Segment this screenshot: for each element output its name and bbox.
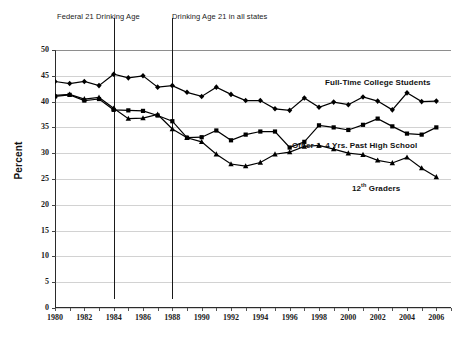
data-point-1-2006	[434, 125, 438, 129]
data-point-1-2001	[361, 123, 365, 127]
x-tick-1988	[172, 308, 173, 311]
x-tick-1989	[187, 308, 188, 311]
annotation-federal-drinking-age: Federal 21 Drinking Age	[57, 12, 140, 21]
data-point-1-1994	[258, 129, 262, 133]
data-point-1-2000	[346, 128, 350, 132]
y-tick-label-20: 20	[25, 200, 49, 209]
data-point-0-1989	[184, 90, 189, 96]
data-point-0-1982	[82, 79, 87, 85]
y-tick-label-50: 50	[25, 45, 49, 54]
data-point-1-1998	[317, 123, 321, 127]
x-tick-1985	[128, 308, 129, 311]
x-tick-2005	[422, 308, 423, 311]
y-tick-label-40: 40	[25, 97, 49, 106]
chart-root: Federal 21 Drinking Age Drinking Age 21 …	[0, 0, 476, 362]
y-tick-label-10: 10	[25, 251, 49, 260]
series-label-other-past-high-school: Other 1–4 Yrs. Past High School	[292, 141, 417, 150]
series-lines	[55, 50, 451, 308]
x-tick-1981	[70, 308, 71, 311]
x-tick-2000	[348, 308, 349, 311]
data-point-1-1986	[141, 109, 145, 113]
data-point-0-1990	[199, 94, 204, 100]
x-tick-1980	[55, 308, 56, 311]
x-tick-2001	[363, 308, 364, 311]
y-tick-label-35: 35	[25, 122, 49, 131]
data-point-0-1988	[170, 83, 175, 89]
series-label-college: Full-Time College Students	[325, 78, 431, 87]
data-point-0-1994	[258, 98, 263, 104]
x-tick-1984	[114, 308, 115, 311]
data-point-2-1994	[258, 160, 263, 165]
data-point-0-1991	[214, 84, 219, 90]
data-point-0-2002	[375, 98, 380, 104]
x-tick-1997	[304, 308, 305, 311]
x-tick-1987	[158, 308, 159, 311]
data-point-1-1985	[126, 108, 130, 112]
data-point-1-1999	[332, 125, 336, 129]
x-tick-1995	[275, 308, 276, 311]
y-axis-title: Percent	[13, 131, 24, 191]
x-tick-1983	[99, 308, 100, 311]
plot-area: 05101520253035404550 1980198219841986198…	[55, 50, 451, 308]
data-point-1-1992	[229, 138, 233, 142]
data-point-0-1992	[228, 92, 233, 98]
x-tick-1991	[216, 308, 217, 311]
data-point-0-1980	[55, 79, 58, 85]
x-tick-2003	[392, 308, 393, 311]
y-tick-label-30: 30	[25, 148, 49, 157]
x-tick-1982	[84, 308, 85, 311]
x-tick-label-2006: 2006	[416, 313, 456, 322]
y-tick-label-15: 15	[25, 226, 49, 235]
x-tick-1994	[260, 308, 261, 311]
y-tick-label-25: 25	[25, 174, 49, 183]
data-point-0-2005	[419, 99, 424, 105]
x-tick-1996	[290, 308, 291, 311]
data-point-0-1995	[272, 106, 277, 112]
series-label-twelfth-graders: 12th Graders	[352, 182, 400, 193]
y-tick-label-45: 45	[25, 71, 49, 80]
x-tick-2002	[378, 308, 379, 311]
data-point-0-1999	[331, 99, 336, 105]
data-point-1-1991	[214, 128, 218, 132]
twelfth-suffix: Graders	[367, 184, 401, 193]
y-tick-label-5: 5	[25, 277, 49, 286]
annotation-all-states-drinking-age: Drinking Age 21 in all states	[172, 12, 267, 21]
data-point-2-2004	[404, 154, 409, 159]
x-tick-1992	[231, 308, 232, 311]
x-tick-1999	[334, 308, 335, 311]
twelfth-prefix: 12	[352, 184, 361, 193]
data-point-2-2006	[434, 174, 439, 179]
x-tick-2004	[407, 308, 408, 311]
x-tick-2006	[436, 308, 437, 311]
data-point-1-2005	[420, 133, 424, 137]
data-point-2-1992	[228, 161, 233, 166]
data-point-0-1998	[316, 104, 321, 110]
data-point-1-2002	[376, 117, 380, 121]
x-tick-1986	[143, 308, 144, 311]
data-point-0-2001	[360, 94, 365, 100]
data-point-0-2006	[434, 98, 439, 104]
data-point-1-1990	[200, 135, 204, 139]
data-point-0-1993	[243, 98, 248, 104]
x-tick-1990	[202, 308, 203, 311]
data-point-1-1988	[170, 119, 174, 123]
data-point-0-1981	[67, 81, 72, 87]
data-point-1-1993	[244, 133, 248, 137]
data-point-0-2000	[346, 102, 351, 108]
data-point-1-2004	[405, 131, 409, 135]
data-point-0-1985	[126, 75, 131, 81]
data-point-1-1995	[273, 129, 277, 133]
x-tick-2007	[451, 308, 452, 311]
x-tick-1993	[246, 308, 247, 311]
x-tick-1998	[319, 308, 320, 311]
data-point-1-2003	[390, 124, 394, 128]
y-tick-label-0: 0	[25, 303, 49, 312]
